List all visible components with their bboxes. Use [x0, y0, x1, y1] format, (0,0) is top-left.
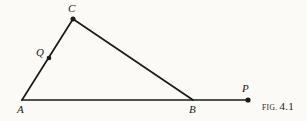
figure-caption: FIG.4.1	[262, 101, 294, 112]
figure-container: A B C Q P FIG.4.1	[0, 0, 307, 121]
point-label-p: P	[242, 83, 249, 94]
point-label-q: Q	[36, 47, 44, 58]
figure-caption-prefix: FIG.	[262, 103, 278, 112]
point-label-c: C	[68, 3, 75, 14]
figure-caption-number: 4.1	[278, 100, 294, 112]
triangle-diagram-svg	[0, 0, 307, 121]
point-label-a: A	[17, 104, 24, 115]
point-marker-group	[47, 17, 251, 103]
point-marker-q	[47, 56, 52, 61]
point-marker-c	[71, 17, 76, 22]
segment-group	[22, 19, 248, 100]
point-marker-p	[245, 97, 250, 102]
point-label-b: B	[189, 104, 196, 115]
segment-c-to-b	[73, 19, 193, 100]
